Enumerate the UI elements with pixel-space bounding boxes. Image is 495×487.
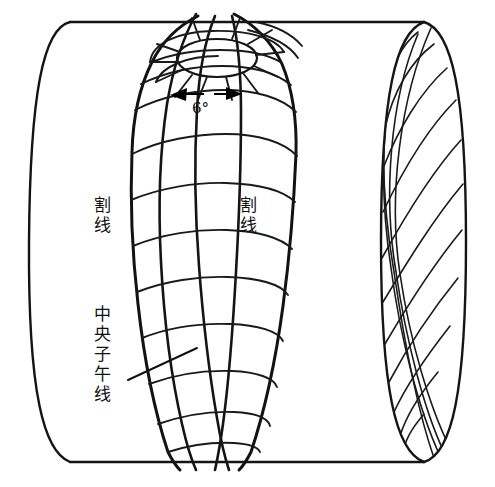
pole-ellipse <box>177 39 257 77</box>
pole-spoke-8 <box>254 66 278 77</box>
zone-parallel-5 <box>131 183 295 202</box>
graticule-meridian-3 <box>390 34 444 452</box>
sphere-graticule <box>382 28 463 458</box>
central-meridian-leader <box>128 348 197 380</box>
pole-spoke-7 <box>243 73 258 93</box>
cylinder-left-rim <box>29 22 70 462</box>
projection-diagram-svg <box>0 0 495 487</box>
zone-parallel-8 <box>142 324 283 341</box>
zone-parallel-11 <box>168 443 260 452</box>
label-secant-line-right: 割线 <box>238 196 256 235</box>
zone-parallel-7 <box>137 277 288 295</box>
zone-meridian-left-inner <box>160 14 196 470</box>
zone-parallel-9 <box>149 371 277 387</box>
central-meridian-leader-line <box>128 348 197 380</box>
diagram-canvas: 割线 割线 中央子午线 6° <box>0 0 495 487</box>
zone-parallel-10 <box>158 412 270 426</box>
central-meridian-path <box>195 16 229 470</box>
label-zone-angle: 6° <box>192 99 209 117</box>
cylinder-right-rim-outer <box>424 22 466 462</box>
zone-parallel-4 <box>132 134 297 156</box>
label-central-meridian: 中央子午线 <box>92 305 110 405</box>
graticule-parallel-9 <box>394 326 450 412</box>
label-secant-line-left: 割线 <box>92 196 110 235</box>
zone-parallel-2 <box>141 66 291 85</box>
zone-parallel-6 <box>133 230 292 249</box>
angle-arrow-left-head <box>170 88 187 101</box>
